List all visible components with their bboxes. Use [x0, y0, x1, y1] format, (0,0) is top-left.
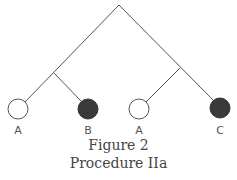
leaf-node-c [210, 98, 230, 118]
leaf-node-a1 [8, 99, 28, 119]
edge-right-inner [146, 68, 180, 102]
leaf-node-a2 [129, 99, 149, 119]
edge-root-right [119, 5, 214, 101]
leaf-label-b: B [84, 124, 92, 137]
leaf-label-a1: A [14, 124, 22, 137]
leaf-node-b [78, 99, 98, 119]
tree-diagram: A B A C [0, 0, 237, 180]
edge-root-left [25, 5, 119, 102]
figure-caption-title: Figure 2 [0, 137, 237, 153]
edge-left-inner [54, 73, 82, 102]
leaf-label-a2: A [135, 124, 143, 137]
figure-caption-subtitle: Procedure IIa [0, 155, 237, 171]
leaf-label-c: C [216, 124, 224, 137]
